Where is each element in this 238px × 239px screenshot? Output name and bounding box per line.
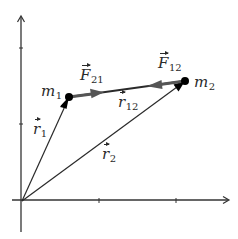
label-r2: r2 <box>102 147 116 162</box>
force-f21-arrow <box>69 89 104 98</box>
label-f21: F21 <box>80 68 104 83</box>
label-r1: r1 <box>33 122 47 137</box>
label-f12: F12 <box>158 56 182 71</box>
mass-point-m2 <box>181 77 189 85</box>
x-axis <box>12 197 229 204</box>
mass-point-m1 <box>65 93 73 101</box>
label-r12: r12 <box>118 95 138 110</box>
vector-r1-arrow <box>22 97 69 201</box>
label-m2: m2 <box>194 75 215 90</box>
force-diagram: m1 m2 F21 F12 r12 r1 r2 <box>0 0 238 239</box>
label-m1: m1 <box>41 84 62 99</box>
